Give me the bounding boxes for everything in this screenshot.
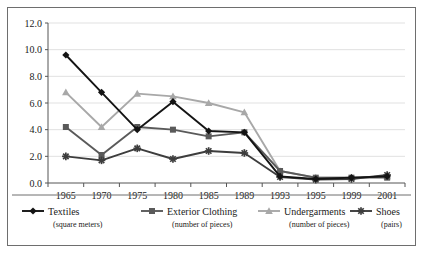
square-marker bbox=[149, 208, 155, 214]
legend-item-textiles[interactable]: Textiles(square meters) bbox=[22, 206, 103, 229]
y-axis-tick-label: 4.0 bbox=[30, 124, 43, 135]
y-axis-tick-label: 8.0 bbox=[30, 71, 43, 82]
legend-series-unit: (number of pieces) bbox=[289, 220, 350, 229]
data-point-square bbox=[63, 124, 69, 130]
data-point-star bbox=[62, 153, 70, 161]
legend-series-name: Exterior Clothing bbox=[167, 206, 237, 217]
chart-plot-area: 0.02.04.06.08.010.012.019651970197519801… bbox=[8, 8, 415, 245]
square-marker bbox=[63, 124, 69, 130]
legend-item-undergarments[interactable]: Undergarments(number of pieces) bbox=[258, 206, 350, 229]
data-point-star bbox=[241, 149, 249, 157]
legend-series-unit: (pairs) bbox=[381, 220, 402, 229]
series-line bbox=[66, 55, 387, 179]
data-point-star bbox=[98, 157, 106, 165]
y-axis-tick-label: 0.0 bbox=[30, 178, 43, 189]
data-point-star bbox=[357, 207, 365, 215]
legend-item-shoes[interactable]: Shoes(pairs) bbox=[350, 206, 402, 229]
data-point-diamond bbox=[29, 207, 36, 214]
data-point-triangle bbox=[62, 89, 70, 96]
legend-item-exterior-clothing[interactable]: Exterior Clothing(number of pieces) bbox=[141, 206, 237, 229]
series-line bbox=[66, 148, 387, 179]
legend-series-unit: (number of pieces) bbox=[172, 220, 233, 229]
data-point-star bbox=[133, 145, 141, 153]
data-point-star bbox=[205, 147, 213, 155]
diamond-marker bbox=[29, 207, 36, 214]
line-chart: 0.02.04.06.08.010.012.019651970197519801… bbox=[8, 8, 415, 245]
legend-series-name: Undergarments bbox=[284, 206, 346, 217]
data-point-star bbox=[169, 155, 177, 163]
triangle-marker bbox=[62, 89, 70, 96]
y-axis-tick-label: 6.0 bbox=[30, 98, 43, 109]
legend-series-name: Shoes bbox=[376, 206, 400, 217]
legend-series-unit: (square meters) bbox=[53, 220, 103, 229]
chart-frame: 0.02.04.06.08.010.012.019651970197519801… bbox=[7, 7, 416, 246]
square-marker bbox=[170, 127, 176, 133]
y-axis-tick-label: 12.0 bbox=[25, 18, 43, 29]
y-axis-tick-label: 10.0 bbox=[25, 44, 43, 55]
y-axis-tick-label: 2.0 bbox=[30, 151, 43, 162]
data-point-square bbox=[149, 208, 155, 214]
data-point-square bbox=[170, 127, 176, 133]
legend-series-name: Textiles bbox=[48, 206, 80, 217]
